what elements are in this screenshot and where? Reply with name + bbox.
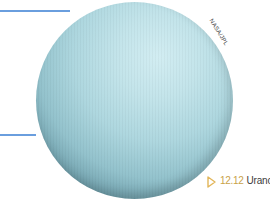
uranus-image bbox=[36, 2, 233, 199]
triangle-outline-icon bbox=[207, 174, 216, 186]
middle-rule-line bbox=[0, 134, 36, 136]
figure-number: 12.12 bbox=[220, 175, 244, 186]
figure-caption: 12.12 Urano. bbox=[207, 172, 270, 188]
top-rule-line bbox=[0, 10, 70, 12]
figure-title: Urano. bbox=[247, 175, 270, 186]
